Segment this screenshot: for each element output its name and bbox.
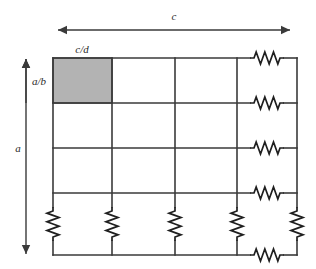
arrow-head [58, 26, 67, 34]
figure-canvas: c c/d a/b a [0, 0, 316, 269]
arrow-head [22, 245, 30, 254]
resistor-horizontal [250, 187, 284, 199]
resistor-horizontal [250, 97, 284, 109]
resistor-vertical [231, 207, 243, 241]
label-total-width: c [172, 10, 177, 22]
resistor-vertical [291, 207, 303, 241]
resistor-horizontal [250, 142, 284, 154]
arrow-head [281, 26, 290, 34]
label-cell-width: c/d [75, 43, 89, 55]
resistor-vertical [106, 207, 118, 241]
resistor-horizontal [250, 52, 284, 64]
label-cell-height: a/b [32, 75, 47, 87]
shaded-unit-cell [53, 58, 112, 103]
label-total-height: a [15, 142, 21, 154]
resistive-grid-figure: c c/d a/b a [0, 0, 316, 269]
resistor-horizontal [250, 249, 284, 261]
resistor-vertical [169, 207, 181, 241]
arrow-head [22, 59, 30, 68]
resistor-vertical [47, 207, 59, 241]
